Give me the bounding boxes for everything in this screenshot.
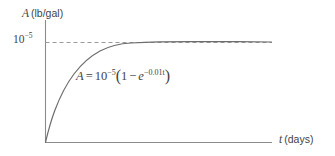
y-axis-symbol: A (22, 7, 31, 19)
equation-exp-power: −0.01t (144, 68, 165, 77)
equation-coefficient-exponent: −5 (107, 68, 116, 77)
y-axis-units: (lb/gal) (31, 7, 63, 19)
y-tick-mantissa: 10 (13, 33, 25, 45)
y-axis-tick-label: 10−5 (13, 34, 32, 46)
equation-minus: − (127, 69, 138, 83)
y-axis-label: A(lb/gal) (22, 8, 63, 20)
figure-container: A(lb/gal) 10−5 t(days) A=10−5(1−e−0.01t) (0, 0, 335, 156)
exponential-saturation-curve (46, 42, 272, 143)
equation-equals: = (84, 69, 95, 83)
y-tick-exponent: −5 (25, 31, 33, 40)
equation-coefficient-mantissa: 10 (95, 69, 108, 83)
equation-close-paren: ) (165, 67, 170, 84)
equation-lhs: A (76, 69, 84, 83)
x-axis-label: t(days) (279, 134, 313, 146)
x-axis-units: (days) (284, 133, 313, 145)
equation-annotation: A=10−5(1−e−0.01t) (76, 68, 170, 84)
